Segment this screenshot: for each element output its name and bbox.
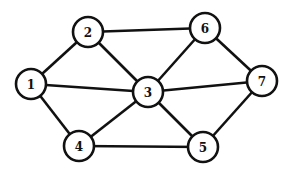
- node-4: 4: [64, 131, 94, 161]
- node-5: 5: [188, 132, 218, 162]
- node-label: 3: [144, 86, 152, 100]
- node-1: 1: [16, 69, 46, 99]
- node-label: 1: [27, 78, 35, 92]
- node-label: 5: [199, 141, 207, 155]
- node-6: 6: [190, 13, 220, 43]
- node-label: 4: [75, 140, 83, 154]
- edge-3-7: [148, 81, 262, 92]
- node-7: 7: [247, 66, 277, 96]
- node-2: 2: [73, 17, 103, 47]
- edge-4-5: [79, 146, 203, 147]
- node-3: 3: [133, 77, 163, 107]
- nodes-group: 1234567: [16, 13, 277, 162]
- edge-2-6: [88, 28, 205, 32]
- graph-diagram: 1234567: [0, 0, 296, 173]
- node-label: 2: [84, 26, 92, 40]
- node-label: 6: [201, 22, 209, 36]
- edge-1-3: [31, 84, 148, 92]
- node-label: 7: [258, 75, 266, 89]
